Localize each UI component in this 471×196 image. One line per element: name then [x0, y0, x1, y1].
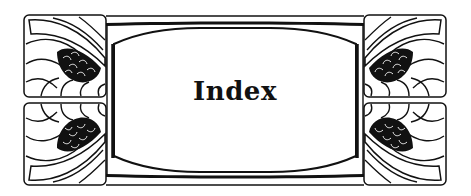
ornament-tile-bottom-right — [364, 103, 446, 185]
page-title: Index — [160, 76, 310, 106]
ornament-tile-top-right — [364, 15, 446, 97]
ornament-tile-top-left — [24, 15, 106, 97]
ornament-tile-bottom-left — [24, 103, 106, 185]
